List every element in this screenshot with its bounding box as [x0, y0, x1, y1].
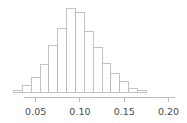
histogram-bar	[40, 64, 49, 92]
histogram-bar	[76, 12, 85, 92]
histogram-bar	[58, 28, 67, 92]
histogram-bar	[67, 9, 76, 92]
histogram-bar	[31, 77, 40, 92]
histogram-bar	[129, 89, 138, 92]
histogram-bar	[138, 90, 147, 92]
histogram-bar	[120, 82, 129, 92]
histogram-plot: 0.050.100.150.20	[0, 0, 187, 123]
x-axis-tick-label: 0.20	[158, 106, 179, 117]
histogram-figure: 0.050.100.150.20	[0, 0, 187, 123]
x-axis-tick-label: 0.10	[69, 106, 90, 117]
x-axis-tick-label: 0.05	[25, 106, 46, 117]
histogram-bar	[102, 64, 111, 92]
histogram-bar	[14, 90, 23, 92]
x-axis-tick-labels: 0.050.100.150.20	[25, 106, 179, 117]
x-axis-tick-label: 0.15	[114, 106, 135, 117]
histogram-bars	[14, 9, 147, 92]
histogram-bar	[93, 47, 102, 92]
histogram-bar	[111, 73, 120, 92]
histogram-bar	[49, 46, 58, 92]
x-axis-ticks	[36, 98, 169, 102]
histogram-bar	[22, 86, 31, 92]
histogram-bar	[84, 32, 93, 92]
